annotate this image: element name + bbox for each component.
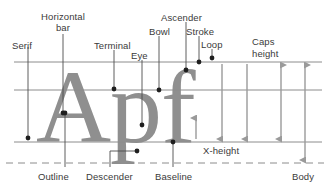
label-caps-height-line2: height xyxy=(252,48,278,59)
label-outline: Outline xyxy=(38,171,69,182)
loop-dot xyxy=(210,56,215,61)
eye-dot xyxy=(140,123,145,128)
baseline-dot xyxy=(171,140,176,145)
bowl-dot xyxy=(157,88,162,93)
serif-dot xyxy=(26,136,31,141)
terminal-dot xyxy=(112,87,117,92)
ascender-dot xyxy=(184,68,189,73)
glyph-sample: Apf xyxy=(36,49,196,164)
label-descender: Descender xyxy=(86,171,133,182)
label-horizontal-bar: Horizontal xyxy=(25,11,101,22)
label-body: Body xyxy=(292,171,314,182)
label-stroke: Stroke xyxy=(186,26,214,37)
outline-dot xyxy=(63,111,68,116)
label-baseline: Baseline xyxy=(155,171,192,182)
descender-dot xyxy=(135,149,140,154)
label-serif: Serif xyxy=(12,40,32,51)
label-terminal: Terminal xyxy=(94,40,131,51)
label-loop: Loop xyxy=(201,39,223,50)
label-bowl: Bowl xyxy=(149,26,170,37)
stroke-dot xyxy=(197,60,202,65)
label-horizontal-bar-line2: bar xyxy=(25,22,101,33)
label-eye: Eye xyxy=(131,50,148,61)
typography-anatomy-diagram: Apf xyxy=(0,0,330,192)
label-x-height: X-height xyxy=(203,145,239,156)
label-caps-height: Caps xyxy=(252,36,275,47)
label-ascender: Ascender xyxy=(161,12,202,23)
